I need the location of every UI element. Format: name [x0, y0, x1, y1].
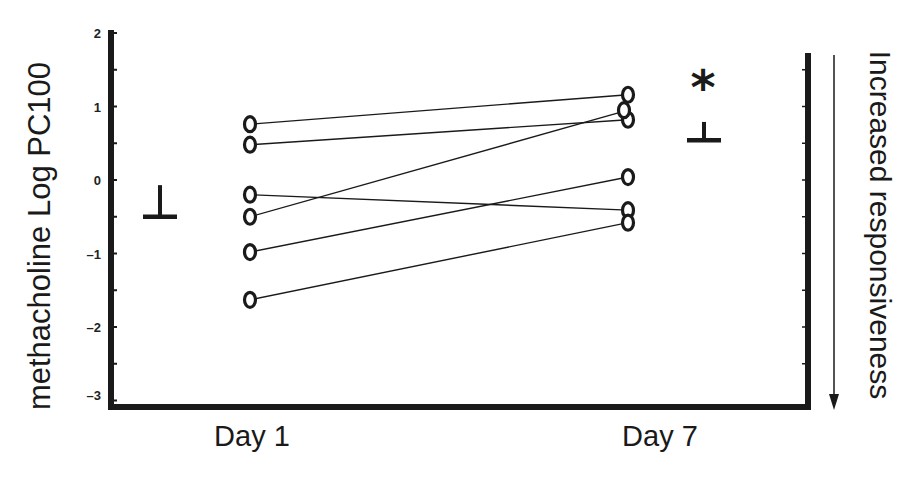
- down-arrow-icon: [829, 394, 839, 410]
- data-point-circle: [245, 292, 256, 307]
- y-tick-label: 1: [94, 99, 101, 114]
- subject-line: [250, 223, 628, 300]
- y-axis-label: methacholine Log PC100: [22, 36, 58, 436]
- data-point-circle: [245, 209, 256, 224]
- y-tick-label: –3: [87, 387, 101, 402]
- data-point-circle: [245, 187, 256, 202]
- data-point-circle: [245, 137, 256, 152]
- data-point-circle: [623, 170, 634, 185]
- subject-line: [250, 95, 628, 124]
- subject-line: [250, 110, 628, 217]
- x-tick-day7: Day 7: [622, 420, 698, 453]
- paired-lines: [250, 95, 628, 300]
- data-point-circle: [623, 215, 634, 230]
- y-tick-label: 2: [94, 26, 101, 41]
- subject-line: [250, 177, 628, 252]
- y-tick-label: 0: [94, 173, 101, 188]
- x-tick-day1: Day 1: [214, 420, 290, 453]
- data-point-circle: [245, 117, 256, 132]
- right-axis-label: Increased responsiveness: [863, 15, 897, 435]
- data-point-circle: [245, 245, 256, 260]
- data-point-circle: [623, 87, 634, 102]
- significance-asterisk: *: [690, 59, 715, 115]
- subject-line: [250, 195, 628, 210]
- subject-line: [250, 120, 628, 145]
- y-tick-label: –1: [87, 246, 101, 261]
- y-tick-label: –2: [87, 320, 101, 335]
- data-point-circle: [619, 103, 630, 118]
- chart-canvas: *: [0, 0, 921, 479]
